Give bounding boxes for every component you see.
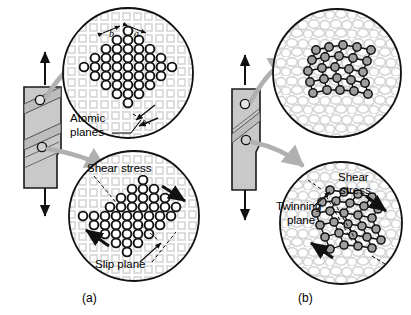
dimension-label-b: b [109,28,114,39]
callout-marker-bottom-b [241,135,250,144]
slipped-lattice: Shear stress Slip plane [69,151,199,281]
label-shear-stress: Shear stress [87,162,152,174]
figure-slip-vs-twinning: b a Atomic planes [0,0,411,315]
panel-caption-b: (b) [298,291,313,305]
panel-caption-a: (a) [82,291,97,305]
callout-marker-bottom [37,142,46,151]
label-planes: planes [70,126,104,138]
label-shear-b: Shear [338,171,369,183]
shear-stress-callout-b: Shear stress [338,171,371,196]
label-slip-plane: Slip plane [95,258,146,270]
undeformed-lattice-hex [273,9,401,137]
callout-marker-top [35,95,44,104]
undeformed-lattice: b a Atomic planes [63,8,193,138]
label-stress-b: stress [340,184,371,196]
callout-marker-top-b [240,99,249,108]
diagram-canvas: b a Atomic planes [0,0,411,315]
label-plane-b: plane [287,214,315,226]
dimension-label-a: a [134,28,139,39]
magnifier-circle-b-top [273,9,401,137]
label-atomic: Atomic [70,112,105,124]
